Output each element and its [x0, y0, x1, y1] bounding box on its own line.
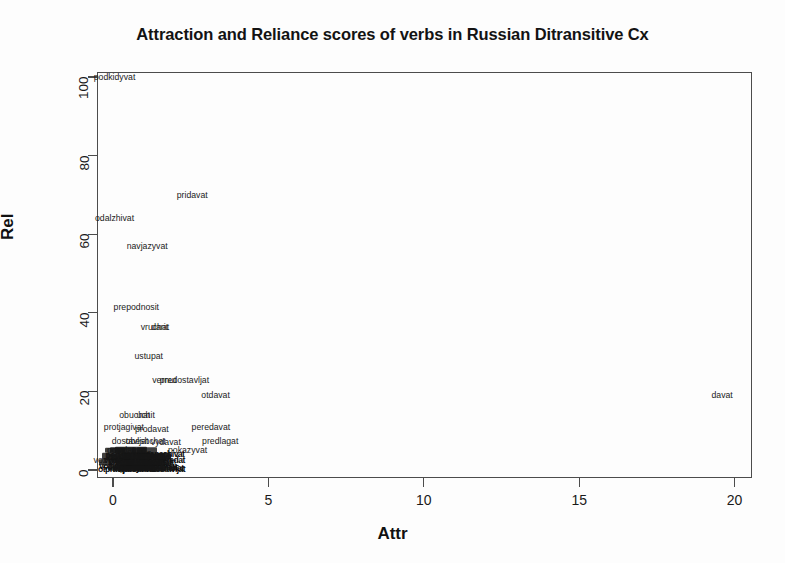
data-point-label: otdavat [201, 391, 230, 400]
dense-cluster-mark [156, 453, 170, 460]
y-tick-label: 60 [77, 234, 92, 249]
scatter-plot-figure: Attraction and Reliance scores of verbs … [0, 0, 785, 563]
plot-area: podkidyvatpridavatodalzhivatnavjazyvatpr… [97, 72, 752, 478]
data-point-label: predostavljat [160, 375, 209, 384]
x-tick-mark [112, 478, 113, 487]
data-point-label: podkidyvat [94, 73, 136, 82]
x-tick-mark [268, 478, 269, 487]
x-axis-label: Attr [0, 524, 785, 544]
data-point-label: davat [712, 391, 733, 400]
data-point-label: ustupat [134, 352, 163, 361]
x-tick-label: 0 [109, 492, 117, 508]
data-point-label: peredavat [192, 422, 231, 431]
data-point-label: prodavat [135, 424, 169, 433]
data-point-label: uchit [136, 411, 154, 420]
data-point-label: pridavat [177, 191, 208, 200]
x-tick-mark [423, 478, 424, 487]
x-tick-label: 10 [416, 492, 432, 508]
data-point-label: darit [151, 322, 168, 331]
x-tick-mark [734, 478, 735, 487]
y-tick-label: 100 [77, 77, 92, 100]
data-point-label: predlagat [202, 436, 238, 445]
page-title: Attraction and Reliance scores of verbs … [0, 25, 785, 44]
data-point-label: navjazyvat [127, 242, 168, 251]
data-point-label: prepodnosit [114, 303, 159, 312]
y-tick-label: 80 [77, 155, 92, 170]
y-tick-label: 40 [77, 312, 92, 327]
y-axis-label: Rel [0, 214, 18, 240]
dense-cluster-mark [153, 459, 173, 465]
x-tick-label: 20 [727, 492, 743, 508]
x-tick-label: 5 [264, 492, 272, 508]
x-tick-mark [579, 478, 580, 487]
y-tick-label: 20 [77, 391, 92, 406]
dense-cluster-mark [150, 466, 176, 471]
x-tick-label: 15 [571, 492, 587, 508]
data-point-label: odalzhivat [95, 214, 134, 223]
y-tick-label: 0 [77, 470, 92, 478]
dense-cluster-mark [137, 448, 157, 454]
